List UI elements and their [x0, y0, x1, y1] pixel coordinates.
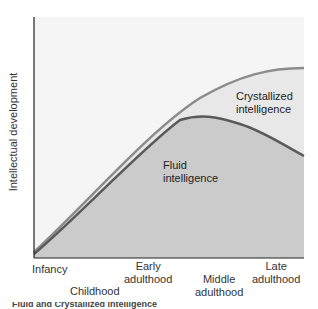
x-tick-late-adulthood: Late adulthood [252, 260, 300, 286]
x-tick-label: adulthood [124, 273, 172, 286]
x-tick-label: adulthood [252, 273, 300, 286]
x-tick-childhood: Childhood [70, 285, 120, 298]
fluid-label: Fluid intelligence [163, 159, 218, 185]
x-tick-label: Childhood [70, 285, 120, 298]
x-tick-label: Middle [195, 273, 243, 286]
fluid-label-line2: intelligence [163, 172, 218, 185]
crystallized-label: Crystallized intelligence [236, 90, 293, 116]
x-tick-label: adulthood [195, 286, 243, 299]
x-tick-label: Late [252, 260, 300, 273]
x-tick-infancy: Infancy [32, 263, 67, 276]
x-tick-label: Early [124, 260, 172, 273]
crystallized-label-line1: Crystallized [236, 90, 293, 103]
x-tick-label: Infancy [32, 263, 67, 276]
x-tick-early-adulthood: Early adulthood [124, 260, 172, 286]
crystallized-label-line2: intelligence [236, 103, 293, 116]
x-tick-middle-adulthood: Middle adulthood [195, 273, 243, 299]
y-axis-label: Intellectual development [7, 67, 19, 197]
fluid-label-line1: Fluid [163, 159, 218, 172]
